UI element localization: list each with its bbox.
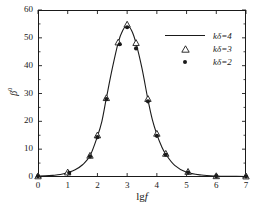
x-tick-label: 5 xyxy=(180,181,194,190)
x-tick-label: 0 xyxy=(31,181,45,190)
legend-triangle-icon xyxy=(163,42,207,55)
y-tick-label: 40 xyxy=(11,61,33,70)
y-tick-label: 60 xyxy=(11,5,33,14)
y-axis-title-text: β xyxy=(8,91,19,96)
x-axis-title-text: lg xyxy=(136,190,145,202)
x-tick-label: 4 xyxy=(150,181,164,190)
legend-item-kdelta2: kδ=2 xyxy=(163,55,247,68)
legend-label-kdelta2: kδ=2 xyxy=(207,57,232,67)
x-axis-title: lgf xyxy=(38,190,246,202)
figure-container: 0102030405060 01234567 β0 lgf kδ=4 kδ=3 … xyxy=(0,0,258,212)
x-tick-label: 7 xyxy=(239,181,253,190)
legend-line-icon xyxy=(163,29,207,42)
x-tick-label: 1 xyxy=(61,181,75,190)
y-axis-title-superscript: 0 xyxy=(7,88,13,91)
y-tick-label: 50 xyxy=(11,33,33,42)
legend-item-kdelta4: kδ=4 xyxy=(163,29,247,42)
y-tick-label: 10 xyxy=(11,144,33,153)
y-tick-label: 20 xyxy=(11,116,33,125)
x-tick-label: 3 xyxy=(120,181,134,190)
legend-label-kdelta3: kδ=3 xyxy=(207,44,232,54)
y-axis-title: β0 xyxy=(7,72,18,112)
legend-item-kdelta3: kδ=3 xyxy=(163,42,247,55)
x-tick-label: 2 xyxy=(90,181,104,190)
x-tick-label: 6 xyxy=(209,181,223,190)
legend: kδ=4 kδ=3 kδ=2 xyxy=(163,29,247,68)
y-tick-label: 0 xyxy=(11,172,33,181)
legend-label-kdelta4: kδ=4 xyxy=(207,31,232,41)
x-axis-title-italic: f xyxy=(145,190,148,202)
legend-circle-icon xyxy=(163,55,207,68)
